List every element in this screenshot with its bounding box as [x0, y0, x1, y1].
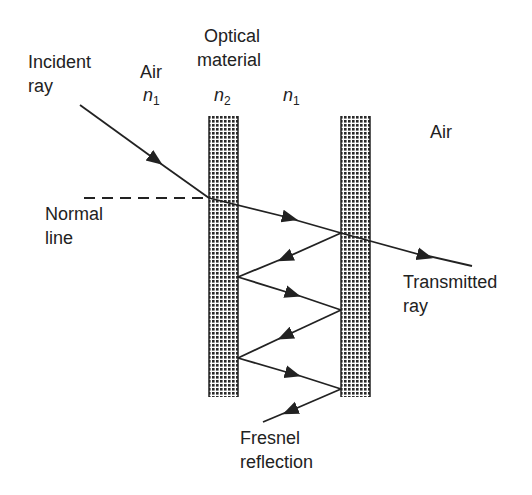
incident-label-1: Incident — [28, 52, 91, 72]
rays — [80, 105, 472, 422]
incident-label-2: ray — [28, 76, 53, 96]
left-slab — [209, 116, 238, 397]
air-right-label: Air — [430, 122, 452, 142]
transmitted-label-2: ray — [403, 296, 428, 316]
optical-label-2: material — [197, 50, 261, 70]
fresnel-reflection-diagram: Incident ray Air n1 Optical material n2 … — [0, 0, 532, 495]
reflected-ray-1 — [285, 233, 341, 258]
fresnel-label-2: reflection — [240, 452, 313, 472]
normal-label-1: Normal — [45, 204, 103, 224]
normal-label-2: line — [45, 228, 73, 248]
reflected-ray-2 — [238, 277, 293, 294]
transmitted-label-1: Transmitted — [403, 272, 497, 292]
optical-label-1: Optical — [204, 26, 260, 46]
n1-right-label: n1 — [283, 85, 300, 108]
n1-left-label: n1 — [143, 85, 160, 108]
incident-ray — [80, 105, 156, 160]
fresnel-label-1: Fresnel — [240, 428, 300, 448]
reflected-ray-3 — [285, 310, 341, 336]
right-slab — [341, 116, 370, 397]
fresnel-reflection-ray — [290, 389, 341, 411]
air-left-label: Air — [140, 62, 162, 82]
reflected-ray-4 — [238, 358, 293, 374]
n2-label: n2 — [214, 85, 231, 108]
